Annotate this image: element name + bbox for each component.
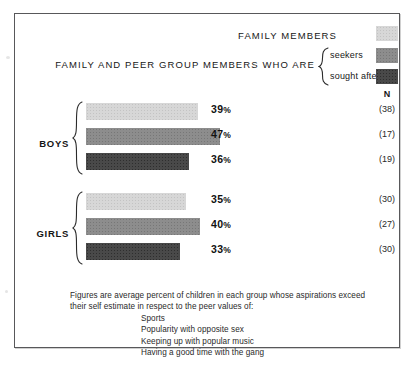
chart-frame: FAMILY MEMBERS FAMILY AND PEER GROUP MEM… (14, 13, 400, 348)
bar-n-value: (38) (367, 104, 407, 114)
bar-boys-light (86, 103, 198, 120)
bar-value-label: 40% (211, 218, 231, 230)
bar-value-label: 36% (211, 153, 231, 165)
bar-girls-light (86, 193, 186, 210)
footnote-lead: Figures are average percent of children … (70, 290, 380, 313)
bar-girls-dark (86, 243, 180, 260)
bar-row: 47%(17) (15, 126, 399, 148)
bar-value-label: 33% (211, 243, 231, 255)
bar-n-value: (30) (367, 244, 407, 254)
bar-girls-mid (86, 218, 200, 235)
bar-value-label: 39% (211, 103, 231, 115)
footnote-item: Sports (70, 313, 380, 324)
bar-boys-mid (86, 128, 220, 145)
bar-value-label: 35% (211, 193, 231, 205)
bar-row: 33%(30) (15, 241, 399, 263)
footnote-item-list: SportsPopularity with opposite sexKeepin… (70, 313, 380, 359)
footnote-item: Popularity with opposite sex (70, 324, 380, 335)
bar-row: 40%(27) (15, 216, 399, 238)
chart-footnote: Figures are average percent of children … (70, 290, 380, 358)
footnote-item: Keeping up with popular music (70, 336, 380, 347)
bar-row: 39%(38) (15, 101, 399, 123)
bar-n-value: (19) (367, 154, 407, 164)
bar-value-label: 47% (211, 128, 231, 140)
bar-n-value: (30) (367, 194, 407, 204)
bar-n-value: (27) (367, 219, 407, 229)
bar-n-value: (17) (367, 129, 407, 139)
scan-speckle (5, 290, 8, 293)
bar-row: 35%(30) (15, 191, 399, 213)
scan-speckle (6, 56, 10, 59)
footnote-item: Having a good time with the gang (70, 347, 380, 358)
bar-boys-dark (86, 153, 189, 170)
bar-row: 36%(19) (15, 151, 399, 173)
